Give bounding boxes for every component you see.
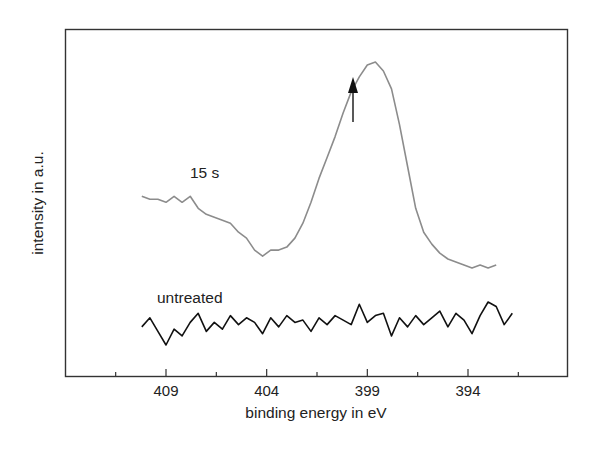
- label-15s: 15 s: [190, 164, 220, 181]
- xps-chart: 409404399394 binding energy in eV intens…: [0, 0, 596, 450]
- x-tick-label: 399: [355, 382, 380, 399]
- y-axis-label: intensity in a.u.: [29, 151, 46, 254]
- x-axis-tick-labels: 409404399394: [153, 382, 480, 399]
- x-axis-label: binding energy in eV: [245, 404, 387, 421]
- plot-frame: [66, 30, 568, 377]
- x-tick-label: 404: [254, 382, 279, 399]
- series-untreated-line: [142, 302, 513, 345]
- x-tick-label: 409: [153, 382, 178, 399]
- x-tick-label: 394: [455, 382, 480, 399]
- x-axis-ticks: [116, 369, 519, 376]
- label-untreated: untreated: [157, 289, 223, 306]
